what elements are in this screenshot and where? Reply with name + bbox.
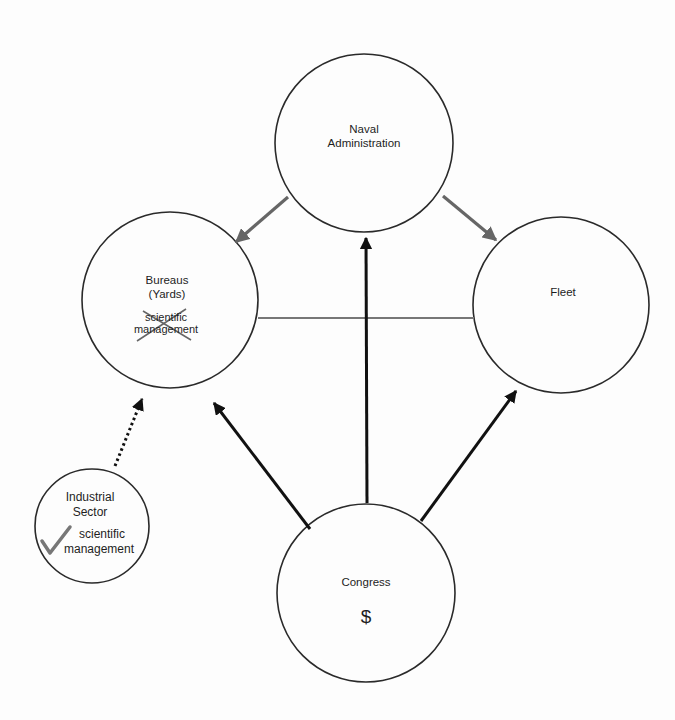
node-fleet: [473, 217, 649, 393]
industrial-note-line2: management: [64, 542, 134, 557]
congress-label-line1: Congress: [341, 575, 390, 589]
naval-label-line1: Naval: [328, 122, 401, 136]
industrial-sector-label: Industrial Sector: [66, 490, 115, 520]
naval-administration-label: Naval Administration: [328, 122, 401, 150]
dollar-icon: $: [361, 607, 372, 627]
edge-congress-to-fleet: [421, 391, 516, 521]
diagram-canvas: [0, 0, 675, 720]
fleet-label: Fleet: [550, 285, 576, 299]
industrial-label-line1: Industrial: [66, 490, 115, 505]
industrial-checked-note: scientific management: [70, 527, 134, 557]
edge-industrial-to-bureaus: [115, 399, 142, 466]
industrial-note-line1: scientific: [70, 527, 134, 542]
bureaus-label: Bureaus (Yards): [146, 273, 189, 301]
edge-naval-to-fleet: [443, 196, 496, 240]
congress-label: Congress: [341, 575, 390, 589]
bureaus-label-line1: Bureaus: [146, 273, 189, 287]
node-congress: [277, 504, 455, 682]
edge-congress-to-bureaus: [214, 403, 310, 529]
bureaus-note-line2: management: [134, 323, 198, 335]
edge-naval-to-bureaus: [236, 197, 288, 242]
bureaus-crossed-note: scientific management: [134, 311, 198, 335]
node-industrial-sector: [35, 469, 149, 583]
fleet-label-line1: Fleet: [550, 285, 576, 299]
edge-congress-to-naval: [366, 238, 367, 503]
naval-label-line2: Administration: [328, 136, 401, 150]
industrial-label-line2: Sector: [66, 505, 115, 520]
bureaus-note-line1: scientific: [134, 311, 198, 323]
bureaus-label-line2: (Yards): [146, 287, 189, 301]
